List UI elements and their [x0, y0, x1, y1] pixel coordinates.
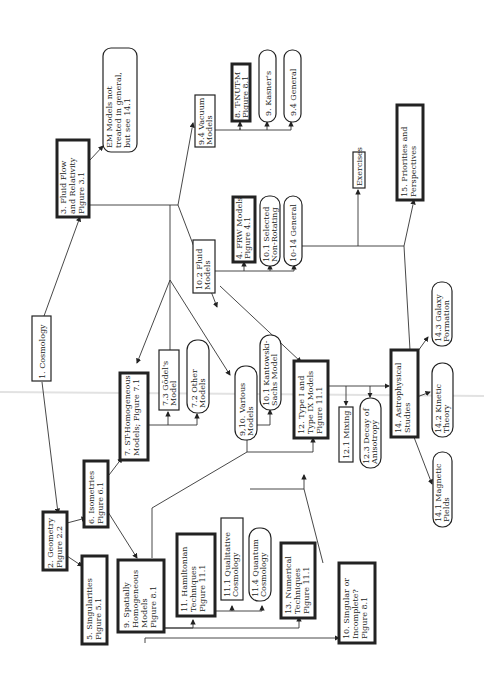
node-label: Perspectives	[409, 146, 418, 197]
node-label: Models	[198, 378, 207, 408]
svg-text:7. ST-Homogeneous Models: 7. ST-Homogeneous Models; Figure 7.1	[123, 373, 141, 456]
node-label: Figure 4.1	[243, 217, 252, 259]
node-label: Fields	[442, 497, 451, 522]
node-mixing[interactable]: 12.1 Mixing	[339, 407, 353, 462]
node-label: 7. ST-Homogeneous	[123, 375, 132, 456]
svg-text:Exercises: Exercises	[355, 147, 364, 186]
node-general-9-4[interactable]: 9.4 General	[284, 50, 301, 122]
node-label: 14. Astrophysical	[394, 362, 403, 433]
node-label: Model	[169, 380, 178, 406]
node-label: Techniques	[293, 568, 302, 614]
node-singularities[interactable]: 5. Singularities Figure 5.1	[82, 556, 107, 644]
node-numerical-techniques[interactable]: 13. Numerical Techniques Figure 11.1	[281, 543, 315, 618]
node-label: Anisotropy	[370, 420, 379, 465]
node-frw-models[interactable]: 4. FRW Models Figure 4.1	[233, 195, 255, 262]
node-spatially-homogeneous-models[interactable]: 9. Spatially Homogeneous Models Figure 8…	[118, 560, 164, 632]
node-various-models[interactable]: 9,10. Various Models	[235, 366, 257, 440]
node-label: 10-14 General	[289, 204, 298, 262]
node-label: 2. Geometry	[46, 518, 55, 568]
node-st-homogeneous-models[interactable]: 7. ST-Homogeneous Models; Figure 7.1	[120, 373, 148, 460]
node-label: Figure 3.1	[77, 172, 86, 214]
node-label: 15. Priorities and	[400, 127, 409, 197]
node-em-models-note[interactable]: EM Models not treated in general, but se…	[103, 48, 137, 152]
chapter-flow-diagram: 1. Cosmology 2. Geometry Figure 2.2 3. F…	[0, 0, 484, 696]
node-label: 11. Hamiltonian	[180, 547, 189, 612]
node-decay-of-anisotropy[interactable]: 12.3 Decay of Anisotropy	[360, 398, 381, 468]
svg-text:10.1 Selected Non-Rotati: 10.1 Selected Non-Rotating	[262, 204, 279, 262]
node-label: 12. Type I and	[297, 376, 306, 434]
node-label: Incomplete?	[351, 589, 360, 639]
node-label: Figure 5.1	[94, 598, 103, 640]
node-exercises[interactable]: Exercises	[353, 147, 365, 188]
node-label: Non-Rotating	[270, 207, 279, 262]
node-label: Figure 11.1	[315, 387, 324, 434]
svg-text:10-14 General: 10-14 General	[289, 204, 298, 262]
node-label: Models	[203, 260, 212, 290]
node-kantowski-sachs-model[interactable]: 10.1 Kantowski- Sachs Model	[260, 335, 281, 410]
svg-text:9.4 General: 9.4 General	[289, 68, 298, 116]
node-label: 13. Numerical	[284, 556, 293, 614]
node-label: Exercises	[355, 147, 364, 186]
svg-text:1. Cosmology: 1. Cosmology	[38, 324, 47, 379]
node-label: Figure 8.1	[360, 597, 369, 639]
node-hamiltonian-techniques[interactable]: 11. Hamiltonian Techniques Figure 11.1	[177, 534, 215, 616]
node-label: Models	[205, 115, 214, 145]
node-label: but see 14.1	[123, 98, 132, 148]
node-label: Figure 2.2	[55, 526, 64, 568]
node-qualitative-cosmology[interactable]: 11.1 Qualitative Cosmology	[221, 518, 243, 600]
node-isometries[interactable]: 6. Isometries Figure 6.1	[84, 461, 108, 527]
svg-text:8. T-NUT-M Figure 8.1: 8. T-NUT-M Figure 8.1	[233, 69, 250, 118]
node-singular-or-incomplete[interactable]: 10. Singular or Incomplete? Figure 8.1	[339, 563, 375, 643]
node-label: Figure 8.1	[149, 586, 158, 628]
node-godels-model[interactable]: 7.3 Gödel's Model	[159, 350, 179, 410]
node-label: 5. Singularities	[85, 578, 94, 640]
node-type-i-ix-models[interactable]: 12. Type I and Type IX Models Figure 11.…	[294, 361, 328, 438]
node-label: Cosmology	[259, 552, 268, 597]
node-label: Homogeneous	[131, 570, 140, 628]
node-label: Formation	[442, 300, 451, 342]
svg-text:12.1 Mixing: 12.1 Mixing	[342, 411, 351, 459]
node-label: Figure 11.1	[198, 565, 207, 612]
node-priorities-perspectives[interactable]: 15. Priorities and Perspectives	[397, 105, 423, 200]
node-label: Type IX Models	[306, 371, 315, 434]
node-label: and Relativity	[68, 157, 77, 214]
node-label: Cosmology	[231, 552, 240, 597]
node-label: 9.4 General	[289, 68, 298, 116]
node-magnetic-fields[interactable]: 14.1 Magnetic Fields	[433, 452, 452, 527]
node-selected-non-rotating[interactable]: 10.1 Selected Non-Rotating	[260, 196, 280, 266]
node-cosmology[interactable]: 1. Cosmology	[32, 316, 51, 381]
node-fluid-models[interactable]: 10.2 Fluid Models	[193, 240, 215, 293]
node-label: 1. Cosmology	[38, 324, 47, 379]
node-label: Models; Figure 7.1	[132, 379, 141, 456]
node-galaxy-formation[interactable]: 14.3 Galaxy Formation	[432, 282, 452, 346]
node-fluid-flow-relativity[interactable]: 3. Fluid Flow and Relativity Figure 3.1	[57, 140, 89, 217]
node-label: 12.1 Mixing	[342, 411, 351, 459]
node-label: 3. Fluid Flow	[59, 160, 68, 214]
node-label: treated in general,	[114, 72, 123, 148]
node-astrophysical-studies[interactable]: 14. Astrophysical Studies	[391, 350, 418, 437]
node-label: Figure 11.1	[302, 567, 311, 614]
node-label: 10. Singular or	[342, 578, 351, 639]
node-label: 9. Kasner's	[264, 71, 273, 116]
node-label: 6. Isometries	[87, 471, 96, 524]
node-t-nut-m[interactable]: 8. T-NUT-M Figure 8.1	[232, 64, 250, 121]
node-label: Figure 6.1	[96, 482, 105, 524]
node-label: 9. Spatially	[122, 582, 131, 628]
node-vacuum-models[interactable]: 9.4 Vacuum Models	[195, 95, 215, 147]
svg-text:9. Kasner's: 9. Kasner's	[264, 71, 273, 116]
node-general-10-14[interactable]: 10-14 General	[284, 196, 302, 266]
node-label: Models	[246, 406, 255, 436]
node-label: Theory	[442, 404, 451, 433]
node-geometry[interactable]: 2. Geometry Figure 2.2	[43, 512, 67, 570]
node-label: Sachs Model	[270, 354, 279, 406]
node-label: Studies	[403, 403, 412, 433]
node-other-models[interactable]: 7.2 Other Models	[187, 340, 209, 413]
node-label: Models	[140, 598, 149, 628]
node-label: EM Models not	[105, 85, 114, 148]
node-kinetic-theory[interactable]: 14.2 Kinetic Theory	[432, 363, 453, 437]
node-label: Figure 8.1	[241, 76, 250, 118]
node-kasners[interactable]: 9. Kasner's	[259, 50, 276, 122]
node-quantum-cosmology[interactable]: 11.4 Quantum Cosmology	[249, 528, 271, 601]
node-label: Techniques	[189, 566, 198, 612]
